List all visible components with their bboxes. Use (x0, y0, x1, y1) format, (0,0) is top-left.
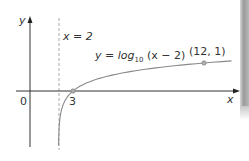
x-intercept-point (71, 89, 75, 93)
asymptote-label: x = 2 (62, 30, 93, 43)
page-edge-fade (240, 106, 249, 120)
y-axis-label: y (18, 14, 26, 27)
page-edge-shadow (240, 0, 249, 106)
point-label: (12, 1) (189, 45, 226, 58)
y-axis-arrow-icon (28, 16, 33, 23)
intercept-label: 3 (69, 95, 76, 108)
x-axis-arrow-icon (233, 89, 240, 94)
equation-label: y = log10 (x − 2) (94, 49, 185, 64)
point-12-1 (202, 61, 206, 65)
log-curve (59, 61, 232, 146)
x-axis-label: x (226, 93, 234, 106)
origin-label: 0 (20, 95, 27, 108)
log-function-graph: y x 0 x = 2 y = log10 (x − 2) 3 (12, 1) (0, 0, 249, 161)
